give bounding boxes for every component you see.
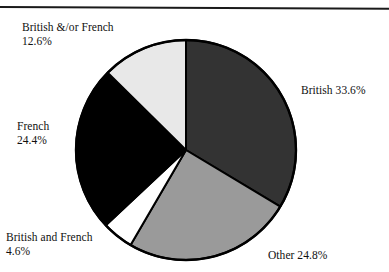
slice-label-british-and-french: British and French 4.6% xyxy=(6,231,93,258)
chart-area: British &/or French 12.6% French 24.4% B… xyxy=(0,0,389,272)
slice-label-french-name: French xyxy=(17,120,49,132)
slice-label-british-and-french-value: 4.6% xyxy=(6,245,93,259)
slice-label-french: French 24.4% xyxy=(17,120,49,147)
pie-chart-figure: British &/or French 12.6% French 24.4% B… xyxy=(0,0,389,272)
slice-label-british: British 33.6% xyxy=(301,84,366,98)
slice-label-british-or-french-name: British &/or French xyxy=(22,21,114,33)
slice-label-british-text: British 33.6% xyxy=(301,84,366,96)
slice-label-french-value: 24.4% xyxy=(17,134,49,148)
slice-label-british-and-french-name: British and French xyxy=(6,231,93,243)
slice-label-british-or-french-value: 12.6% xyxy=(22,35,114,49)
slice-label-other: Other 24.8% xyxy=(268,249,327,263)
slice-label-other-text: Other 24.8% xyxy=(268,249,327,261)
slice-label-british-or-french: British &/or French 12.6% xyxy=(22,21,114,48)
